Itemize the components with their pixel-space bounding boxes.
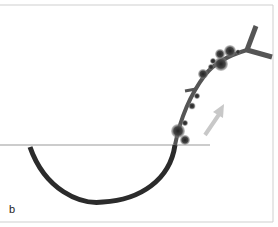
curved-filament — [30, 145, 175, 202]
diagram-canvas — [0, 0, 278, 227]
branch-arm-up — [247, 26, 256, 50]
panel-label: b — [9, 203, 15, 215]
direction-arrow — [205, 104, 224, 135]
side-bud — [185, 89, 196, 91]
frame-border — [0, 5, 273, 222]
particle-cluster — [171, 45, 241, 145]
branch-arm-right — [247, 50, 272, 57]
